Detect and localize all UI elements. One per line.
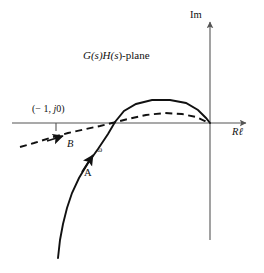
plane-title-tail: )-plane [118,49,149,61]
plot-canvas [0,0,264,273]
branch-a-label: A [84,168,92,179]
plane-title: G(s)H(s)-plane [83,50,150,61]
nyquist-plot-figure: G(s)H(s)-plane Im Rℓ (− 1, j0) B A ω [0,0,264,273]
nyquist-curve-solid [58,100,210,258]
plane-title-g: G( [83,49,95,61]
imaginary-axis-label: Im [190,10,202,21]
branch-b-label: B [67,139,73,150]
critical-point-label: (− 1, j0) [32,104,65,114]
plane-title-h: )H( [99,49,114,61]
critical-point-lead: (− 1, [32,103,53,114]
nyquist-curve-dashed [20,113,210,147]
omega-label: ω [97,146,102,154]
critical-point-tail: 0) [56,103,64,114]
real-axis-label: Rℓ [232,127,243,138]
